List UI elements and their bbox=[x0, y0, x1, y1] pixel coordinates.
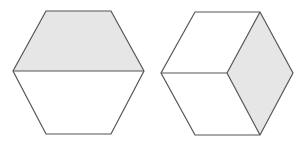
left-hexagon-shaded-top-half bbox=[13, 11, 144, 71]
right-hexagon-shaded-rhombus bbox=[227, 12, 293, 135]
right-hexagon bbox=[161, 12, 293, 135]
hexagon-diagram bbox=[0, 0, 297, 142]
left-hexagon bbox=[13, 11, 144, 134]
